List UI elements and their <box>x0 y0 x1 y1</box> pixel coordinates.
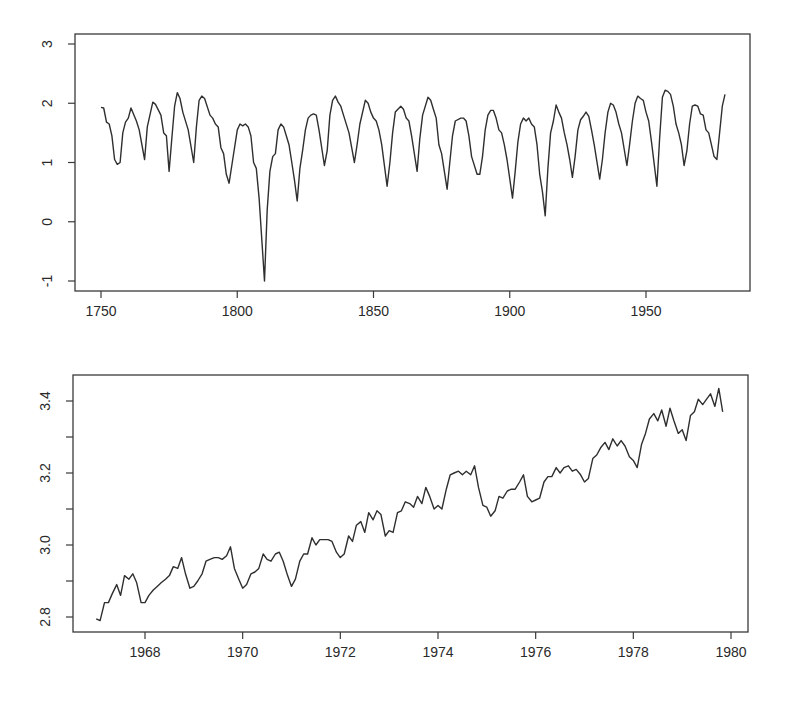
x-tick-label: 1800 <box>222 303 253 319</box>
x-tick-label: 1900 <box>494 303 525 319</box>
top-chart: -10123 17501800185019001950 <box>39 34 750 319</box>
y-tick-label: 2.8 <box>37 607 53 627</box>
y-tick-label: 3 <box>39 40 55 48</box>
x-tick-label: 1970 <box>227 644 258 660</box>
x-tick-label: 1850 <box>358 303 389 319</box>
top-y-axis: -10123 <box>39 40 75 287</box>
y-tick-label: 1 <box>39 158 55 166</box>
y-tick-label: -1 <box>39 275 55 288</box>
x-tick-label: 1750 <box>85 303 116 319</box>
chart-canvas: -10123 17501800185019001950 2.83.03.23.4… <box>0 0 793 708</box>
top-plot-frame <box>75 34 750 291</box>
y-tick-label: 3.0 <box>37 535 53 555</box>
x-tick-label: 1978 <box>618 644 649 660</box>
x-tick-label: 1974 <box>422 644 453 660</box>
y-tick-label: 3.4 <box>37 391 53 411</box>
bottom-y-axis: 2.83.03.23.4 <box>37 391 73 627</box>
y-tick-label: 0 <box>39 218 55 226</box>
x-tick-label: 1972 <box>325 644 356 660</box>
y-tick-label: 2 <box>39 99 55 107</box>
x-tick-label: 1976 <box>520 644 551 660</box>
x-tick-label: 1980 <box>715 644 746 660</box>
y-tick-label: 3.2 <box>37 463 53 483</box>
bottom-series-line <box>96 388 723 620</box>
x-tick-label: 1968 <box>129 644 160 660</box>
bottom-x-axis: 1968197019721974197619781980 <box>129 632 746 660</box>
top-x-axis: 17501800185019001950 <box>85 291 661 319</box>
bottom-chart: 2.83.03.23.4 196819701972197419761978198… <box>37 375 748 660</box>
top-series-line <box>101 90 725 281</box>
x-tick-label: 1950 <box>630 303 661 319</box>
